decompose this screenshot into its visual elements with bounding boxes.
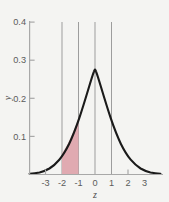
x-tick-label-3: 0 <box>92 178 97 188</box>
x-tick-label-4: 1 <box>109 178 114 188</box>
x-tick-label-0: -3 <box>41 178 49 188</box>
y-tick-label-1: 0.2 <box>13 94 26 104</box>
y-axis-title: y <box>2 95 13 101</box>
normal-distribution-figure: 0.1 0.2 0.3 0.4 -3 -2 -1 0 1 2 3 z y <box>0 0 169 202</box>
x-tick-label-6: 3 <box>142 178 147 188</box>
x-tick-label-2: -1 <box>74 178 82 188</box>
chart-canvas: 0.1 0.2 0.3 0.4 -3 -2 -1 0 1 2 3 z y <box>0 0 169 202</box>
y-tick-label-2: 0.3 <box>13 55 26 65</box>
y-tick-label-0: 0.1 <box>13 132 26 142</box>
x-tick-label-5: 2 <box>125 178 130 188</box>
x-tick-label-1: -2 <box>58 178 66 188</box>
x-axis-title: z <box>92 189 97 200</box>
y-tick-label-3: 0.4 <box>13 17 26 27</box>
